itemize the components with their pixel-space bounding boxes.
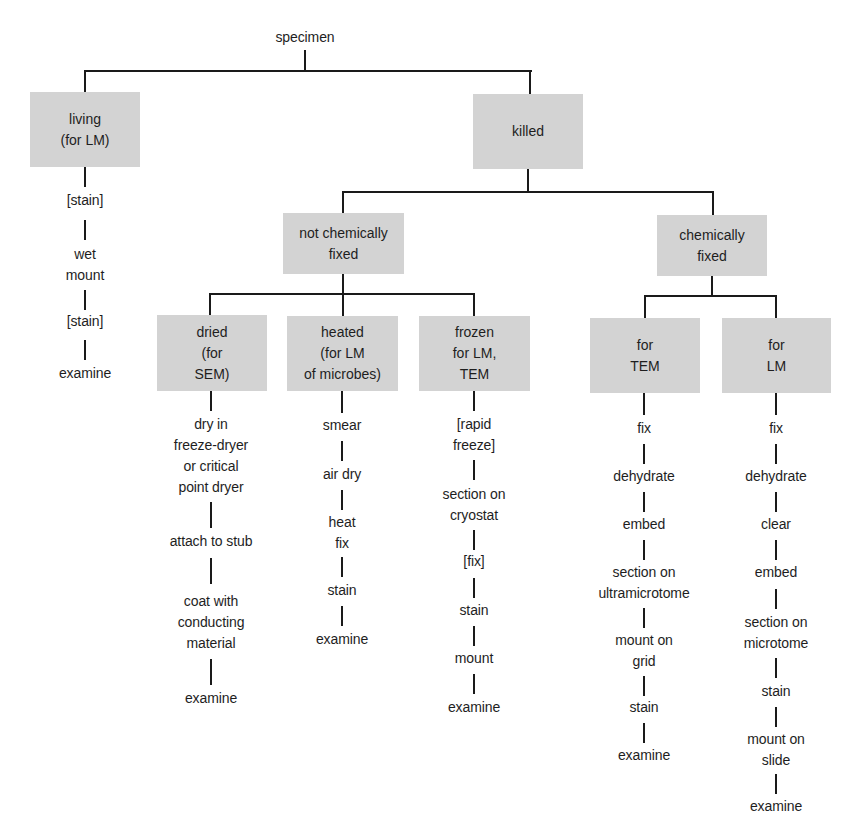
connector: [341, 557, 343, 577]
connector: [342, 191, 714, 193]
dried-step: coat with conducting material: [178, 591, 245, 654]
node-not-chemically-fixed: not chemically fixed: [283, 213, 404, 274]
connector: [209, 293, 211, 315]
node-for-tem: for TEM: [590, 318, 700, 393]
connector: [341, 490, 343, 510]
connector: [775, 492, 777, 512]
connector: [775, 393, 777, 415]
connector: [341, 391, 343, 413]
connector: [775, 774, 777, 794]
connector: [643, 540, 645, 560]
node-dried-label: dried (for SEM): [195, 322, 230, 385]
connector: [643, 444, 645, 464]
dried-step: attach to stub: [170, 531, 253, 552]
connector: [84, 167, 86, 187]
living-step: wet mount: [66, 244, 104, 286]
connector: [775, 707, 777, 727]
frozen-step: examine: [448, 697, 500, 718]
frozen-step: stain: [459, 600, 488, 621]
node-frozen-label: frozen for LM, TEM: [453, 322, 497, 385]
node-chemically-fixed-label: chemically fixed: [679, 225, 744, 267]
connector: [342, 293, 344, 316]
connector: [341, 441, 343, 461]
connector: [643, 676, 645, 696]
connector: [341, 606, 343, 626]
dried-step: examine: [185, 688, 237, 709]
for-lm-step: fix: [769, 418, 783, 439]
for-lm-step: examine: [750, 796, 802, 817]
for-tem-step: stain: [629, 697, 658, 718]
node-heated: heated (for LM of microbes): [287, 316, 398, 391]
node-frozen: frozen for LM, TEM: [419, 316, 530, 391]
heated-step: air dry: [323, 464, 361, 485]
connector: [643, 608, 645, 628]
connector: [210, 502, 212, 528]
frozen-step: section on cryostat: [443, 484, 506, 526]
for-lm-step: section on microtome: [744, 612, 808, 654]
frozen-step: mount: [455, 648, 493, 669]
connector: [304, 50, 306, 72]
root-label-specimen: specimen: [275, 27, 334, 48]
node-living: living (for LM): [30, 92, 140, 167]
connector: [210, 558, 212, 584]
for-tem-step: mount on grid: [615, 630, 673, 672]
connector: [643, 393, 645, 415]
connector: [342, 191, 344, 213]
living-step: [stain]: [67, 190, 104, 211]
connector: [473, 674, 475, 694]
heated-step: smear: [323, 415, 361, 436]
connector: [643, 492, 645, 512]
frozen-step: [rapid freeze]: [453, 414, 495, 456]
connector: [527, 169, 529, 193]
for-tem-step: examine: [618, 745, 670, 766]
connector: [644, 295, 646, 318]
connector: [342, 274, 344, 295]
connector: [473, 578, 475, 598]
for-lm-step: stain: [761, 681, 790, 702]
node-not-chemically-fixed-label: not chemically fixed: [299, 223, 388, 265]
node-for-lm: for LM: [722, 318, 831, 393]
connector: [644, 295, 777, 297]
node-for-tem-label: for TEM: [630, 335, 660, 377]
connector: [775, 444, 777, 464]
for-lm-step: embed: [755, 562, 797, 583]
connector: [84, 340, 86, 360]
node-killed-label: killed: [512, 121, 544, 142]
connector: [210, 659, 212, 685]
living-step: [stain]: [67, 311, 104, 332]
for-lm-step: mount on slide: [747, 729, 805, 771]
dried-step: dry in freeze-dryer or critical point dr…: [174, 414, 248, 498]
for-tem-step: dehydrate: [613, 466, 674, 487]
node-killed: killed: [473, 94, 583, 169]
connector: [473, 391, 475, 411]
connector: [473, 530, 475, 550]
node-for-lm-label: for LM: [767, 335, 786, 377]
for-tem-step: embed: [623, 514, 665, 535]
connector: [473, 293, 475, 316]
connector: [84, 220, 86, 240]
for-lm-step: dehydrate: [745, 466, 806, 487]
connector: [775, 540, 777, 560]
connector: [643, 723, 645, 743]
heated-step: examine: [316, 629, 368, 650]
for-tem-step: fix: [637, 418, 651, 439]
connector: [775, 658, 777, 678]
heated-step: stain: [327, 580, 356, 601]
connector: [775, 295, 777, 318]
node-chemically-fixed: chemically fixed: [657, 215, 767, 276]
frozen-step: [fix]: [463, 551, 484, 572]
connector: [711, 276, 713, 296]
node-heated-label: heated (for LM of microbes): [304, 322, 381, 385]
living-step: examine: [59, 363, 111, 384]
connector: [775, 589, 777, 609]
heated-step: heat fix: [329, 512, 356, 554]
node-living-label: living (for LM): [61, 109, 110, 151]
for-tem-step: section on ultramicrotome: [598, 562, 689, 604]
connector: [473, 460, 475, 480]
connector: [473, 626, 475, 646]
for-lm-step: clear: [761, 514, 791, 535]
connector: [712, 191, 714, 215]
node-dried: dried (for SEM): [157, 315, 267, 391]
connector: [210, 391, 212, 411]
connector: [529, 70, 531, 94]
